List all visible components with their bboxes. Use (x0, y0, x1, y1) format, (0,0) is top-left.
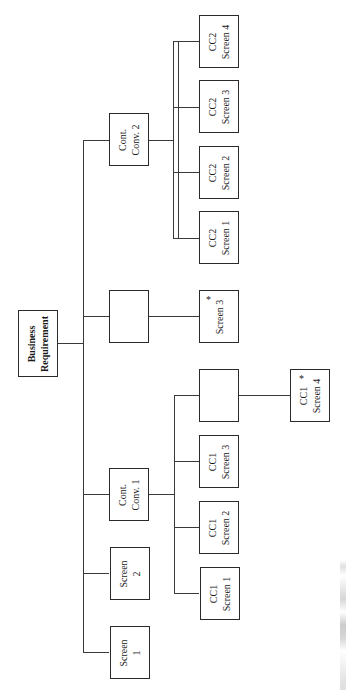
node-label-line2: Conv. 1 (129, 479, 142, 510)
node-screen-1: Screen 1 (110, 626, 150, 679)
node-label-line2: Screen 3 (219, 444, 232, 479)
node-label-line1: CC1 (297, 378, 310, 413)
connector-trunk-screen-1 (83, 652, 109, 653)
connector-blank-1-screen-3 (148, 316, 199, 317)
node-label-line1: CC1 (206, 444, 219, 479)
connector-cc1-screen-1 (174, 593, 199, 594)
connector-root-trunk (57, 343, 83, 344)
connector-trunk-cont-conv-1 (83, 494, 109, 495)
node-label-line2: Screen 1 (219, 220, 232, 255)
node-label-line2: Conv. 2 (129, 124, 142, 155)
connector-cc1-screen-3 (174, 461, 199, 462)
node-label-line1: CC2 (206, 24, 219, 59)
node-label-line1: Screen (117, 560, 130, 587)
node-label-line1: CC2 (206, 89, 219, 124)
connector-cc2-screen-3 (173, 107, 199, 108)
asterisk-marker: * (206, 295, 211, 305)
node-label-line1: CC1 (206, 510, 219, 545)
connector-cc2-screen-1 (173, 238, 199, 239)
connector-cont-conv-1-bus (148, 494, 174, 495)
node-business-requirement: Business Requirement (18, 310, 58, 377)
node-label-line1: CC2 (206, 220, 219, 255)
connector-cont-conv-2-bus (148, 140, 173, 141)
node-label-line1: Screen (117, 639, 130, 666)
node-cc1-screen-1: CC1 Screen 1 (200, 567, 240, 620)
hierarchy-diagram: Business Requirement Cont. Conv. 2 Cont.… (0, 0, 346, 690)
node-blank-2 (199, 369, 239, 422)
node-blank-1 (109, 290, 149, 343)
node-label-line2: Screen 2 (219, 155, 232, 190)
node-screen-2: Screen 2 (110, 547, 150, 600)
node-label-line2: Screen 3 (219, 89, 232, 124)
connector-cc2-screen-2 (173, 172, 199, 173)
connector-cc1-bus (174, 395, 175, 594)
connector-trunk-blank-1 (83, 316, 109, 317)
node-cc2-screen-2: CC2 Screen 2 (199, 146, 239, 199)
connector-cc2-bus-a (173, 41, 174, 239)
connector-trunk-screen-2 (83, 573, 109, 574)
node-screen-3: * Screen 3 (199, 290, 239, 343)
node-label-line2: Screen 1 (220, 576, 233, 611)
node-label-line2: Screen 3 (213, 299, 226, 334)
connector-cc2-screen-4 (173, 41, 199, 42)
connector-cc2-bus-b (178, 41, 179, 239)
node-label-line1: CC2 (206, 155, 219, 190)
node-label-line2: Screen 4 (219, 24, 232, 59)
node-label-line2: Screen 4 (310, 378, 323, 413)
node-label-line1: Business (25, 316, 38, 372)
connector-trunk (83, 140, 84, 653)
figure-caption-clipped (340, 560, 346, 690)
node-cc1-screen-3: CC1 Screen 3 (199, 435, 239, 488)
node-cc2-screen-3: CC2 Screen 3 (199, 80, 239, 133)
node-cont-conv-2: Cont. Conv. 2 (109, 113, 149, 166)
node-cc2-screen-1: CC2 Screen 1 (199, 211, 239, 264)
node-label-line1: Cont. (116, 479, 129, 510)
node-label-line2: Requirement (38, 316, 51, 372)
node-label-line2: 1 (130, 639, 143, 666)
node-cc1-screen-4: * CC1 Screen 4 (290, 369, 330, 422)
node-label-line2: 2 (130, 560, 143, 587)
node-cont-conv-1: Cont. Conv. 1 (109, 468, 149, 521)
connector-cc1-blank-2 (174, 395, 199, 396)
node-label-line1: Cont. (116, 124, 129, 155)
node-cc2-screen-4: CC2 Screen 4 (199, 15, 239, 68)
connector-trunk-cont-conv-2 (83, 140, 109, 141)
connector-cc1-screen-2 (174, 527, 199, 528)
node-cc1-screen-2: CC1 Screen 2 (199, 501, 239, 554)
node-label-line2: Screen 2 (219, 510, 232, 545)
node-label-line1: CC1 (207, 576, 220, 611)
connector-blank-2-cc1-screen-4 (238, 395, 290, 396)
